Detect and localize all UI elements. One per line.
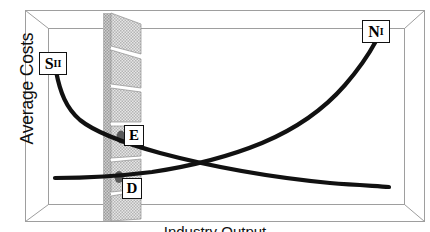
equilibrium-point-label: E <box>124 125 144 146</box>
supply-curve-label-base: S <box>45 56 54 72</box>
d-point-label: D <box>122 178 142 199</box>
box-edge-bottom-left <box>26 205 49 222</box>
box-edge-top-right <box>405 11 425 29</box>
d-point-label-base: D <box>127 181 138 196</box>
supply-curve-label: SII <box>39 52 67 75</box>
figure-canvas: Average Costs Industry Output SII NI E D <box>0 0 430 232</box>
demand-curve-label: NI <box>362 20 390 43</box>
plane-slab <box>111 88 141 122</box>
x-axis-label: Industry Output <box>0 224 430 232</box>
box-edge-bottom-right <box>405 205 425 222</box>
demand-curve-label-base: N <box>368 24 380 40</box>
plane-left-face <box>103 13 111 221</box>
equilibrium-point-label-base: E <box>129 128 139 143</box>
y-axis-label: Average Costs <box>17 29 38 149</box>
box-edge-top-left <box>26 11 49 29</box>
